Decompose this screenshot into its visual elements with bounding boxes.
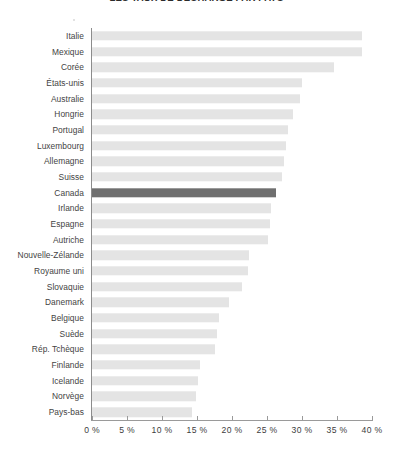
bar	[92, 31, 362, 40]
bar	[92, 360, 200, 369]
bar-row: Portugal	[0, 122, 393, 138]
bar	[92, 78, 302, 87]
bar-row: Suisse	[0, 169, 393, 185]
x-axis-tick-label: 5 %	[119, 425, 135, 435]
category-label: Royaume uni	[34, 266, 84, 276]
bar-row: Suède	[0, 326, 393, 342]
bar-row: Nouvelle-Zélande	[0, 248, 393, 264]
category-label: Luxembourg	[37, 141, 84, 151]
bar-row: Hongrie	[0, 106, 393, 122]
bar-row: Rép. Tchèque	[0, 342, 393, 358]
category-label: Corée	[61, 62, 84, 72]
bar-row: Italie	[0, 28, 393, 44]
x-axis-tick	[197, 416, 198, 421]
bar	[92, 172, 282, 181]
bar	[92, 125, 288, 134]
category-label: Pays-bas	[49, 407, 84, 417]
category-label: Portugal	[52, 125, 84, 135]
bar-row: Finlande	[0, 357, 393, 373]
bar	[92, 407, 192, 416]
bar-row: Mexique	[0, 44, 393, 60]
bar-row: États-unis	[0, 75, 393, 91]
bar	[92, 219, 270, 228]
category-label: Allemagne	[44, 156, 84, 166]
bar-row: Allemagne	[0, 153, 393, 169]
bar	[92, 329, 217, 338]
category-label: Nouvelle-Zélande	[18, 250, 84, 260]
x-axis-tick-label: 20 %	[222, 425, 243, 435]
category-label: Hongrie	[54, 109, 84, 119]
bar-row: Danemark	[0, 295, 393, 311]
bar	[92, 266, 248, 275]
category-label: Norvège	[52, 391, 84, 401]
category-label: Rép. Tchèque	[32, 344, 84, 354]
bar	[92, 251, 249, 260]
bar	[92, 345, 215, 354]
bar-row: Australie	[0, 91, 393, 107]
x-axis-tick-label: 25 %	[257, 425, 278, 435]
category-label: États-unis	[46, 78, 84, 88]
x-axis-tick	[162, 416, 163, 421]
category-label: Finlande	[51, 360, 84, 370]
category-label: Canada	[54, 188, 84, 198]
bar-row: Slovaquie	[0, 279, 393, 295]
x-axis-tick-label: 0 %	[84, 425, 100, 435]
bar	[92, 313, 219, 322]
bar-row: Espagne	[0, 216, 393, 232]
bar-row: Luxembourg	[0, 138, 393, 154]
bar	[92, 47, 362, 56]
x-axis-tick	[232, 416, 233, 421]
bar	[92, 392, 196, 401]
category-label: Italie	[66, 31, 84, 41]
x-axis-tick	[337, 416, 338, 421]
category-label: Danemark	[45, 297, 84, 307]
category-label: Irlande	[58, 203, 84, 213]
plot-area: ItalieMexiqueCoréeÉtats-unisAustralieHon…	[0, 0, 393, 451]
bar	[92, 157, 284, 166]
bar	[92, 62, 334, 71]
category-label: Belgique	[51, 313, 84, 323]
x-axis-tick	[92, 416, 93, 421]
x-axis-tick-label: 15 %	[187, 425, 208, 435]
x-axis-tick	[127, 416, 128, 421]
bar	[92, 141, 286, 150]
bar-row: Autriche	[0, 232, 393, 248]
category-label: Suède	[60, 329, 84, 339]
bar	[92, 298, 229, 307]
bar	[92, 110, 293, 119]
category-label: Autriche	[53, 235, 84, 245]
bar-row: Irlande	[0, 200, 393, 216]
x-axis-tick	[267, 416, 268, 421]
bar-chart: LES TAUX DE DÉCHARGE PAR PAYS ItalieMexi…	[0, 0, 393, 451]
bar-row: Royaume uni	[0, 263, 393, 279]
x-axis-tick-label: 40 %	[362, 425, 383, 435]
bar-highlight	[92, 188, 276, 197]
category-label: Slovaquie	[47, 282, 84, 292]
bar	[92, 94, 300, 103]
x-axis-tick-label: 35 %	[327, 425, 348, 435]
category-label: Mexique	[52, 47, 84, 57]
bar-row: Icelande	[0, 373, 393, 389]
category-label: Espagne	[51, 219, 84, 229]
x-axis-tick-label: 30 %	[292, 425, 313, 435]
x-axis-tick	[372, 416, 373, 421]
x-axis-tick	[302, 416, 303, 421]
bar-row: Norvège	[0, 389, 393, 405]
category-label: Australie	[51, 94, 84, 104]
x-axis-tick-label: 10 %	[152, 425, 173, 435]
bar	[92, 235, 268, 244]
category-label: Suisse	[59, 172, 84, 182]
bar	[92, 204, 271, 213]
bar	[92, 282, 242, 291]
bar-row: Canada	[0, 185, 393, 201]
bar	[92, 376, 198, 385]
category-label: Icelande	[52, 376, 84, 386]
bar-row: Corée	[0, 59, 393, 75]
bar-row: Belgique	[0, 310, 393, 326]
